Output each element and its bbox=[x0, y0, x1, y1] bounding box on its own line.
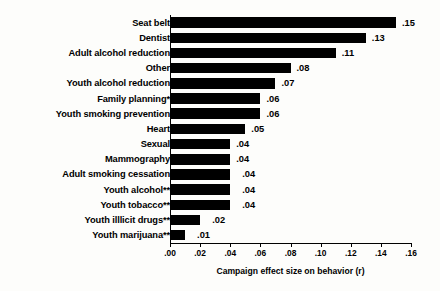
x-tick bbox=[381, 243, 382, 247]
bar-row: Seat belt.15 bbox=[0, 15, 440, 30]
bar-row: Heart.05 bbox=[0, 121, 440, 136]
bar-row: Other.08 bbox=[0, 61, 440, 76]
bar bbox=[170, 230, 185, 241]
bar-and-value: .01 bbox=[170, 228, 210, 243]
x-tick-label: .02 bbox=[194, 248, 206, 258]
x-tick-label: .10 bbox=[315, 248, 327, 258]
bar-row: Adult alcohol reduction.11 bbox=[0, 45, 440, 60]
x-axis-title: Campaign effect size on behavior (r) bbox=[170, 266, 411, 276]
bar-row: Youth smoking prevention.06 bbox=[0, 106, 440, 121]
x-tick-label: .04 bbox=[224, 248, 236, 258]
category-label: Sexual bbox=[0, 139, 170, 149]
bar-value-label: .04 bbox=[236, 139, 249, 149]
category-label: Seat belt bbox=[0, 18, 170, 28]
bar-row: Dentist.13 bbox=[0, 30, 440, 45]
bar-and-value: .05 bbox=[170, 121, 264, 136]
bar-and-value: .06 bbox=[170, 106, 279, 121]
category-label: Family planning* bbox=[0, 94, 170, 104]
bar-and-value: .15 bbox=[170, 15, 415, 30]
bar-row: Youth alcohol**.04 bbox=[0, 182, 440, 197]
bar-value-label: .07 bbox=[281, 78, 294, 88]
bar-value-label: .02 bbox=[212, 215, 225, 225]
bar bbox=[170, 124, 245, 135]
bar bbox=[170, 215, 200, 226]
bar-row: Sexual.04 bbox=[0, 137, 440, 152]
x-tick bbox=[291, 243, 292, 247]
category-label: Adult alcohol reduction bbox=[0, 48, 170, 58]
bar-value-label: .05 bbox=[251, 124, 264, 134]
bar-and-value: .04 bbox=[170, 167, 255, 182]
x-tick bbox=[230, 243, 231, 247]
x-tick bbox=[351, 243, 352, 247]
bar-row: Mammography.04 bbox=[0, 152, 440, 167]
bar-and-value: .07 bbox=[170, 76, 294, 91]
bar-and-value: .04 bbox=[170, 182, 255, 197]
x-tick bbox=[260, 243, 261, 247]
category-label: Youth smoking prevention bbox=[0, 109, 170, 119]
bar bbox=[170, 154, 230, 165]
category-label: Dentist bbox=[0, 33, 170, 43]
bar-row: Youth tobacco**.04 bbox=[0, 197, 440, 212]
bar-and-value: .04 bbox=[170, 152, 249, 167]
bar-and-value: .04 bbox=[170, 197, 255, 212]
bar bbox=[170, 108, 260, 119]
x-tick-label: .00 bbox=[164, 248, 176, 258]
x-tick bbox=[321, 243, 322, 247]
bar-row: Adult smoking cessation.04 bbox=[0, 167, 440, 182]
bar-value-label: .01 bbox=[197, 230, 210, 240]
bar bbox=[170, 200, 230, 211]
bar-and-value: .04 bbox=[170, 137, 249, 152]
bar-value-label: .04 bbox=[242, 200, 255, 210]
category-label: Adult smoking cessation bbox=[0, 169, 170, 179]
bar-value-label: .13 bbox=[372, 33, 385, 43]
x-tick-label: .14 bbox=[375, 248, 387, 258]
bar-value-label: .04 bbox=[242, 185, 255, 195]
bar bbox=[170, 139, 230, 150]
category-label: Youth tobacco** bbox=[0, 200, 170, 210]
x-tick-label: .06 bbox=[255, 248, 267, 258]
bar-and-value: .13 bbox=[170, 30, 385, 45]
x-tick bbox=[411, 243, 412, 247]
bar-value-label: .06 bbox=[266, 109, 279, 119]
bar-chart: Seat belt.15Dentist.13Adult alcohol redu… bbox=[0, 0, 440, 291]
x-tick-label: .12 bbox=[345, 248, 357, 258]
x-tick bbox=[170, 243, 171, 247]
bar-and-value: .06 bbox=[170, 91, 279, 106]
bar-and-value: .02 bbox=[170, 212, 225, 227]
bar-row: Family planning*.06 bbox=[0, 91, 440, 106]
category-label: Youth alcohol** bbox=[0, 185, 170, 195]
bar bbox=[170, 63, 291, 74]
x-tick-label: .16 bbox=[405, 248, 417, 258]
category-label: Youth illlicit drugs** bbox=[0, 215, 170, 225]
bar bbox=[170, 169, 230, 180]
bar-and-value: .11 bbox=[170, 45, 354, 60]
bar-and-value: .08 bbox=[170, 61, 309, 76]
bar-value-label: .06 bbox=[266, 94, 279, 104]
x-tick-label: .08 bbox=[285, 248, 297, 258]
y-axis-line bbox=[170, 15, 171, 243]
bar-value-label: .04 bbox=[242, 169, 255, 179]
bar-row: Youth illlicit drugs**.02 bbox=[0, 212, 440, 227]
category-label: Youth alcohol reduction bbox=[0, 78, 170, 88]
bar bbox=[170, 93, 260, 104]
x-tick bbox=[200, 243, 201, 247]
category-label: Mammography bbox=[0, 154, 170, 164]
bar bbox=[170, 48, 336, 59]
category-label: Other bbox=[0, 63, 170, 73]
bar-value-label: .11 bbox=[342, 48, 354, 58]
category-label: Youth marijuana** bbox=[0, 230, 170, 240]
category-label: Heart bbox=[0, 124, 170, 134]
bar-row: Youth alcohol reduction.07 bbox=[0, 76, 440, 91]
bar-row: Youth marijuana**.01 bbox=[0, 228, 440, 243]
bar bbox=[170, 17, 396, 28]
bar bbox=[170, 78, 275, 89]
bar-value-label: .15 bbox=[402, 18, 415, 28]
bar bbox=[170, 184, 230, 195]
bar bbox=[170, 33, 366, 44]
bar-rows: Seat belt.15Dentist.13Adult alcohol redu… bbox=[0, 15, 440, 243]
bar-value-label: .04 bbox=[236, 154, 249, 164]
bar-value-label: .08 bbox=[297, 63, 310, 73]
